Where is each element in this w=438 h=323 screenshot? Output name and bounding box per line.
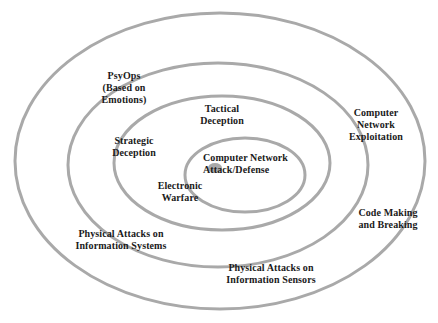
- label-code-making-and-breaking: Code Making and Breaking: [342, 207, 434, 231]
- label-physical-attacks-information-systems: Physical Attacks on Information Systems: [58, 228, 184, 252]
- label-physical-attacks-information-sensors: Physical Attacks on Information Sensors: [205, 262, 337, 286]
- label-strategic-deception: Strategic Deception: [92, 135, 176, 159]
- label-computer-network-attack-defense: Computer Network Attack/Defense: [203, 152, 315, 176]
- label-tactical-deception: Tactical Deception: [176, 103, 268, 127]
- label-electronic-warfare: Electronic Warfare: [140, 180, 220, 204]
- information-warfare-diagram: PsyOps (Based on Emotions) Tactical Dece…: [0, 0, 438, 323]
- label-computer-network-exploitation: Computer Network Exploitation: [330, 107, 422, 143]
- label-psyops: PsyOps (Based on Emotions): [78, 70, 170, 106]
